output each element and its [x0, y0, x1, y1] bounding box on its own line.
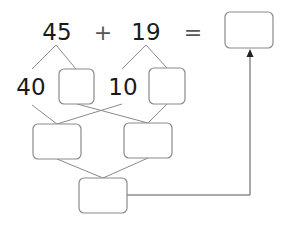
operand2-tens-text: 10 [108, 74, 137, 100]
operand2-text: 19 [131, 19, 160, 45]
equals-sign: = [184, 20, 202, 45]
line-45-to-40 [32, 45, 56, 69]
split-lines-45 [32, 45, 76, 69]
addition-diagram: 45 + 19 = 40 10 [0, 0, 282, 226]
total-box[interactable] [79, 178, 127, 213]
split-lines-19 [122, 45, 167, 69]
operand2-ones-box[interactable] [149, 68, 185, 104]
answer-box[interactable] [225, 12, 273, 48]
line-ones2-to-ones-sum [148, 104, 167, 123]
line-19-to-ones [146, 45, 167, 68]
operand1-ones-box[interactable] [59, 69, 94, 104]
line-ones-sum-to-total [103, 158, 148, 178]
ones-sum-box[interactable] [124, 123, 172, 158]
tens-sum-box[interactable] [33, 124, 81, 159]
line-tens-sum-to-total [57, 159, 103, 178]
line-19-to-10 [122, 45, 146, 69]
line-45-to-ones [56, 45, 76, 69]
arrow-up-icon [247, 49, 254, 57]
line-40-to-tens-sum [32, 105, 57, 124]
operand1-text: 45 [42, 19, 71, 45]
operand1-tens-text: 40 [16, 74, 45, 100]
plus-sign: + [94, 20, 112, 45]
